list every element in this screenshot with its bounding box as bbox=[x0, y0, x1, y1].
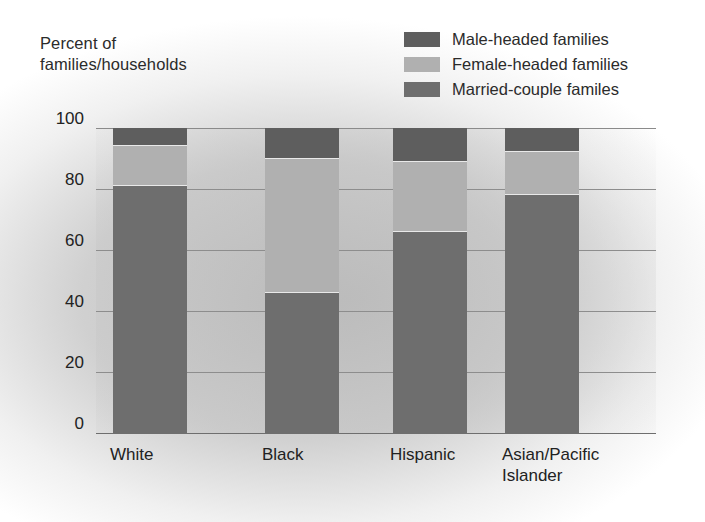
y-tick-label-100: 100 bbox=[32, 110, 84, 127]
bar-segment-female-headed-families bbox=[505, 152, 579, 195]
legend-item-married-couple: Married-couple familes bbox=[404, 77, 628, 102]
bar-segment-married-couple-familes bbox=[113, 186, 187, 433]
bar-segment-male-headed-families bbox=[265, 128, 339, 159]
bars-container bbox=[96, 128, 656, 433]
x-tick-label-black: Black bbox=[262, 445, 304, 466]
bar-segment-married-couple-familes bbox=[505, 195, 579, 433]
bar-segment-married-couple-familes bbox=[393, 232, 467, 433]
legend-swatch-female-headed bbox=[404, 57, 440, 72]
bar-segment-married-couple-familes bbox=[265, 293, 339, 433]
legend: Male-headed families Female-headed famil… bbox=[404, 27, 628, 102]
credit-clip: ock Boston bbox=[687, 408, 703, 518]
bar-asian-pacific-islander bbox=[505, 128, 579, 433]
x-tick-label-white: White bbox=[110, 445, 153, 466]
bar-hispanic bbox=[393, 128, 467, 433]
bar-segment-male-headed-families bbox=[393, 128, 467, 162]
bar-segment-female-headed-families bbox=[393, 162, 467, 232]
bar-black bbox=[265, 128, 339, 433]
bar-segment-male-headed-families bbox=[113, 128, 187, 146]
legend-label-married-couple: Married-couple familes bbox=[452, 81, 619, 98]
legend-label-female-headed: Female-headed families bbox=[452, 56, 628, 73]
y-tick-label-40: 40 bbox=[32, 293, 84, 310]
gridline-0 bbox=[96, 433, 656, 434]
y-axis-title: Percent of families/households bbox=[40, 33, 187, 75]
chart-figure: Percent of families/households Male-head… bbox=[0, 0, 705, 522]
bar-segment-female-headed-families bbox=[113, 146, 187, 186]
y-tick-label-80: 80 bbox=[32, 171, 84, 188]
bar-segment-female-headed-families bbox=[265, 159, 339, 293]
bar-white bbox=[113, 128, 187, 433]
y-tick-label-60: 60 bbox=[32, 232, 84, 249]
bar-segment-male-headed-families bbox=[505, 128, 579, 152]
legend-item-male-headed: Male-headed families bbox=[404, 27, 628, 52]
legend-swatch-male-headed bbox=[404, 32, 440, 47]
y-tick-label-20: 20 bbox=[32, 354, 84, 371]
x-tick-label-asian-pacific-islander: Asian/Pacific Islander bbox=[502, 445, 599, 486]
legend-item-female-headed: Female-headed families bbox=[404, 52, 628, 77]
legend-swatch-married-couple bbox=[404, 82, 440, 97]
legend-label-male-headed: Male-headed families bbox=[452, 31, 609, 48]
y-tick-label-0: 0 bbox=[32, 415, 84, 432]
x-tick-label-hispanic: Hispanic bbox=[390, 445, 455, 466]
